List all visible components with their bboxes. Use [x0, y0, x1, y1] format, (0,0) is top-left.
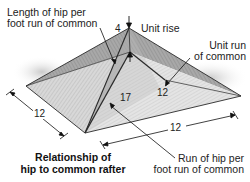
unit-rise-label: Unit rise — [141, 23, 180, 34]
hip-run-value: 17 — [120, 93, 131, 103]
common-run-value: 12 — [157, 88, 168, 98]
rise-value: 4 — [115, 24, 121, 34]
left-side-dimension: 12 — [33, 109, 46, 119]
run-of-hip-label: Run of hip per foot run of common — [150, 153, 244, 175]
length-of-hip-label: Length of hip per foot run of common — [7, 7, 97, 29]
unit-run-label: Unit run of common — [188, 40, 246, 62]
figure-caption: Relationship of hip to common rafter — [14, 151, 132, 175]
hip-roof-diagram: Length of hip per foot run of common 4 U… — [0, 0, 250, 182]
caption-line2: hip to common rafter — [14, 163, 132, 175]
unit-run-line2: of common — [188, 51, 246, 62]
length-of-hip-line2: foot run of common — [7, 18, 97, 29]
front-side-dimension: 12 — [169, 123, 182, 133]
caption-line1: Relationship of — [14, 151, 132, 163]
run-of-hip-line2: foot run of common — [150, 164, 244, 175]
